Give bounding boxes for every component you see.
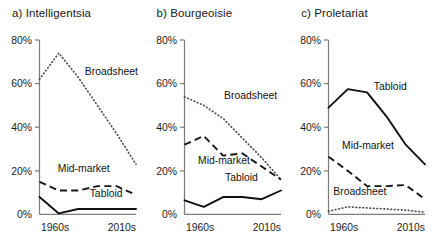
x-tick-label-start-c: 1960s: [330, 222, 358, 233]
panel-intelligentsia: a) Intelligentsia 80% 60% 40% 20% 0%: [0, 0, 145, 244]
series-line-tabloid-c: [329, 89, 425, 164]
figure-newspaper-readership: a) Intelligentsia 80% 60% 40% 20% 0%: [0, 0, 434, 244]
x-axis-labels-c: 1960s 2010s: [330, 222, 425, 233]
y-tick-label-60-c: 60%: [300, 78, 321, 89]
series-label-broadsheet-a: Broadsheet: [85, 66, 138, 77]
series-label-mid-market-a: Mid-market: [58, 163, 110, 174]
x-axis-labels-b: 1960s 2010s: [186, 222, 281, 233]
x-tick-label-start-b: 1960s: [186, 222, 214, 233]
panel-proletariat: c) Proletariat 80% 60% 40% 20% 0%: [289, 0, 434, 244]
y-axis-group-b: 80% 60% 40% 20% 0%: [156, 35, 281, 220]
y-tick-label-60-b: 60%: [156, 78, 177, 89]
panel-bourgeoisie: b) Bourgeoisie 80% 60% 40% 20% 0%: [145, 0, 290, 244]
y-tick-label-40-b: 40%: [156, 122, 177, 133]
y-tick-label-80-a: 80%: [11, 35, 32, 46]
y-tick-label-20-c: 20%: [300, 166, 321, 177]
y-tick-label-60-a: 60%: [11, 78, 32, 89]
x-tick-label-start-a: 1960s: [41, 222, 69, 233]
series-labels-c: Tabloid Mid-market Broadsheet: [334, 81, 408, 197]
y-tick-label-20-a: 20%: [11, 166, 32, 177]
y-tick-label-20-b: 20%: [156, 166, 177, 177]
y-tick-label-0-a: 0%: [17, 209, 32, 220]
y-tick-label-80-b: 80%: [156, 35, 177, 46]
x-axis-labels-a: 1960s 2010s: [41, 222, 136, 233]
x-tick-label-end-c: 2010s: [397, 222, 425, 233]
series-label-tabloid-a: Tabloid: [90, 188, 123, 199]
y-tick-label-0-c: 0%: [306, 209, 321, 220]
series-line-tabloid-b: [184, 191, 280, 207]
series-label-broadsheet-c: Broadsheet: [334, 186, 387, 197]
series-label-mid-market-b: Mid-market: [198, 155, 250, 166]
plot-intelligentsia: 80% 60% 40% 20% 0% Broadsheet Mid-market…: [0, 0, 145, 244]
plot-bourgeoisie: 80% 60% 40% 20% 0% Broadsheet Mid-market…: [145, 0, 290, 244]
y-tick-label-40-c: 40%: [300, 122, 321, 133]
plot-proletariat: 80% 60% 40% 20% 0% Tabloid Mid-market Br…: [289, 0, 434, 244]
series-label-tabloid-b: Tabloid: [225, 172, 258, 183]
series-label-broadsheet-b: Broadsheet: [224, 90, 277, 101]
series-group-b: [184, 97, 280, 207]
series-label-mid-market-c: Mid-market: [342, 140, 394, 151]
series-line-broadsheet-c: [329, 207, 425, 212]
series-line-tabloid-a: [39, 197, 135, 213]
x-tick-label-end-b: 2010s: [252, 222, 280, 233]
x-tick-label-end-a: 2010s: [108, 222, 136, 233]
series-labels-a: Broadsheet Mid-market Tabloid: [58, 66, 138, 199]
y-tick-label-80-c: 80%: [300, 35, 321, 46]
y-tick-label-0-b: 0%: [162, 209, 177, 220]
y-tick-label-40-a: 40%: [11, 122, 32, 133]
series-label-tabloid-c: Tabloid: [374, 81, 407, 92]
